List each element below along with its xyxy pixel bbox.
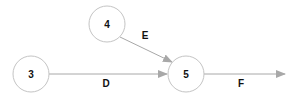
node-3-label: 3 [28,69,34,80]
edge-f: F [204,74,285,89]
node-3[interactable]: 3 [13,56,49,92]
network-diagram: D E F 3 4 5 [0,0,295,95]
edge-e: E [120,30,172,63]
node-4[interactable]: 4 [89,6,125,42]
edge-e-label: E [142,30,149,41]
node-5-label: 5 [183,69,189,80]
edge-d: D [49,74,167,89]
node-5[interactable]: 5 [168,56,204,92]
edge-d-label: D [102,78,109,89]
edge-f-label: F [238,78,244,89]
node-4-label: 4 [104,19,110,30]
